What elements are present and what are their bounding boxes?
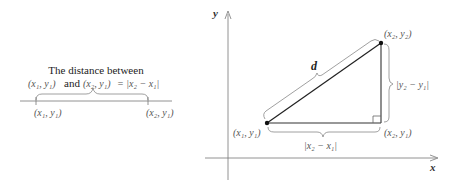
distance-diagram: The distance between (x₁, y₁) and (x₂, y… xyxy=(0,0,457,185)
bottom-left-point-label: (x₁, y₁) xyxy=(233,127,261,139)
right-angle-marker-icon xyxy=(373,116,381,123)
left-point1-label: (x₁, y₁) xyxy=(34,107,62,119)
point-x2-y2 xyxy=(379,41,383,45)
left-title-line1: The distance between xyxy=(48,64,144,76)
vertical-distance-brace xyxy=(384,44,393,122)
left-title-point1: (x₁, y₁) xyxy=(28,78,56,90)
vertical-distance-label: |y₂ − y₁| xyxy=(396,79,429,90)
hypotenuse-brace xyxy=(264,40,379,120)
left-title-point2: (x₂, y₁) xyxy=(83,78,111,90)
left-point2-label: (x₂, y₁) xyxy=(146,107,174,119)
x-axis-label: x xyxy=(429,161,436,173)
bottom-right-point-label: (x₂, y₁) xyxy=(384,127,412,139)
left-title-and: and xyxy=(64,77,80,89)
point-x1-y1 xyxy=(265,121,269,125)
y-axis-label: y xyxy=(211,7,218,19)
right-coordinate-diagram: y x d |y₂ − y₁| |x₂ − x₁| (x₂, y₂) (x₁, … xyxy=(205,7,438,180)
left-title-equation: = |x₂ − x₁| xyxy=(117,78,159,89)
left-number-line-diagram: The distance between (x₁, y₁) and (x₂, y… xyxy=(20,64,174,119)
horizontal-distance-label: |x₂ − x₁| xyxy=(304,140,337,151)
left-distance-brace xyxy=(36,88,148,100)
top-point-label: (x₂, y₂) xyxy=(384,28,412,40)
horizontal-distance-brace xyxy=(268,127,380,137)
hypotenuse xyxy=(267,43,381,123)
hypotenuse-label: d xyxy=(311,59,318,73)
